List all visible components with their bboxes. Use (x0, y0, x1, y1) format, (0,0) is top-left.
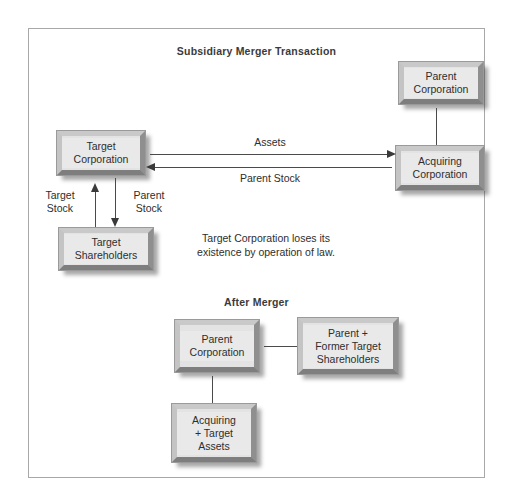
edge-label-parent-stock-vertical: Parent Stock (122, 189, 176, 215)
node-target-shareholders-label: Target Shareholders (64, 234, 148, 264)
connector-after-parent-to-assets (212, 376, 213, 404)
node-target-corporation[interactable]: Target Corporation (57, 131, 145, 175)
node-after-parent-corporation[interactable]: Parent Corporation (175, 320, 259, 372)
node-after-parent-corporation-label: Parent Corporation (180, 331, 254, 361)
node-after-acquiring-target-assets-label: Acquiring + Target Assets (177, 412, 251, 455)
connector-parent-to-acquiring (436, 108, 437, 146)
connector-after-parent-to-shareholders (264, 346, 300, 347)
node-parent-corporation-label: Parent Corporation (404, 68, 478, 98)
connector-assets-line (150, 154, 390, 155)
node-after-parent-former-target-shareholders-label: Parent + Former Target Shareholders (303, 325, 393, 368)
merger-diagram: Subsidiary Merger Transaction After Merg… (0, 0, 513, 502)
connector-target-stock-line (95, 190, 96, 232)
arrowhead-parent-stock-left (146, 163, 155, 171)
diagram-title: Subsidiary Merger Transaction (0, 45, 513, 57)
arrowhead-parent-stock-down (111, 218, 119, 227)
after-merger-title: After Merger (0, 296, 513, 308)
edge-label-assets: Assets (205, 136, 335, 149)
edge-label-target-stock: Target Stock (33, 189, 87, 215)
node-after-acquiring-target-assets[interactable]: Acquiring + Target Assets (172, 404, 256, 462)
node-target-shareholders[interactable]: Target Shareholders (59, 228, 153, 270)
connector-parent-stock-vertical-line (115, 178, 116, 220)
edge-label-parent-stock-horizontal: Parent Stock (195, 172, 345, 185)
node-acquiring-corporation[interactable]: Acquiring Corporation (396, 146, 484, 190)
arrowhead-assets-right (387, 150, 396, 158)
node-target-corporation-label: Target Corporation (62, 138, 140, 168)
node-parent-corporation[interactable]: Parent Corporation (399, 62, 483, 104)
node-acquiring-corporation-label: Acquiring Corporation (401, 153, 479, 183)
arrowhead-target-stock-up (91, 183, 99, 192)
node-after-parent-former-target-shareholders[interactable]: Parent + Former Target Shareholders (298, 318, 398, 374)
merger-note: Target Corporation loses its existence b… (170, 231, 362, 259)
connector-parent-stock-line (152, 167, 392, 168)
